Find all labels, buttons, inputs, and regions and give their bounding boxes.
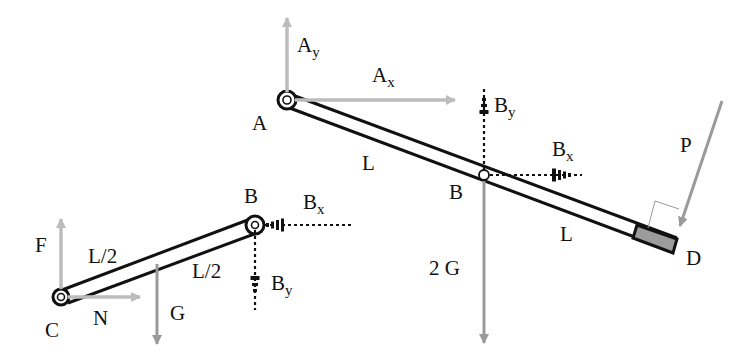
force-By-right <box>480 88 489 170</box>
force-2G-label: 2 G <box>429 256 460 280</box>
segment-BD-label: L <box>560 222 573 246</box>
point-C-label: C <box>45 318 59 342</box>
free-body-diagram: Ay Ax A L By Bx B 2 G L <box>0 0 754 361</box>
force-Bx-right <box>490 169 582 182</box>
force-By-left <box>251 230 260 310</box>
force-G-label: G <box>170 301 185 325</box>
point-A-label: A <box>252 111 268 135</box>
force-Ax-label: Ax <box>372 63 395 90</box>
segment-GB-label: L/2 <box>192 259 221 283</box>
force-Ay-label: Ay <box>297 33 320 60</box>
point-D-label: D <box>686 246 701 270</box>
pin-B-right <box>479 170 489 180</box>
force-N-label: N <box>93 306 108 330</box>
force-Bx-left <box>264 219 352 232</box>
force-P-label: P <box>680 133 692 157</box>
force-F-label: F <box>35 233 47 257</box>
right-member: Ay Ax A L By Bx B 2 G L <box>252 18 722 343</box>
point-B-right-label: B <box>449 180 463 204</box>
force-Bx-right-label: Bx <box>552 137 574 164</box>
force-Bx-left-label: Bx <box>303 190 325 217</box>
segment-AB-label: L <box>362 151 375 175</box>
force-By-right-label: By <box>494 93 516 120</box>
segment-CG-label: L/2 <box>88 244 117 268</box>
pin-C <box>53 289 69 305</box>
pin-A <box>278 91 296 109</box>
left-member: F N C L/2 G L/2 B Bx <box>35 184 352 344</box>
right-angle-marker <box>648 201 679 228</box>
force-P-arrow <box>680 101 722 226</box>
force-By-left-label: By <box>271 271 293 298</box>
point-B-left-label: B <box>244 184 258 208</box>
